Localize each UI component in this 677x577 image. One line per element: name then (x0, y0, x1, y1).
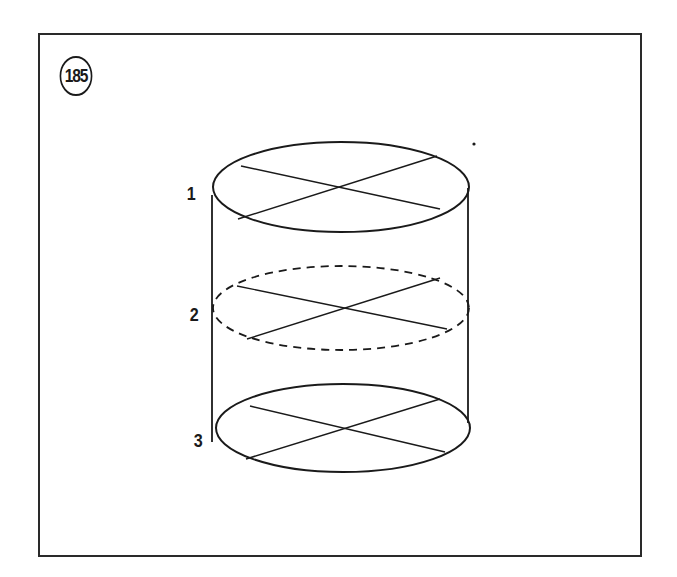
level-1-section (213, 142, 469, 232)
level-label-2: 2 (190, 304, 199, 326)
level-2-section (213, 266, 469, 350)
level-3-section (216, 384, 470, 472)
stray-mark (472, 142, 475, 145)
level-label-1: 1 (187, 183, 196, 205)
cylinder-diagram (0, 0, 677, 577)
level-label-3: 3 (194, 430, 203, 452)
